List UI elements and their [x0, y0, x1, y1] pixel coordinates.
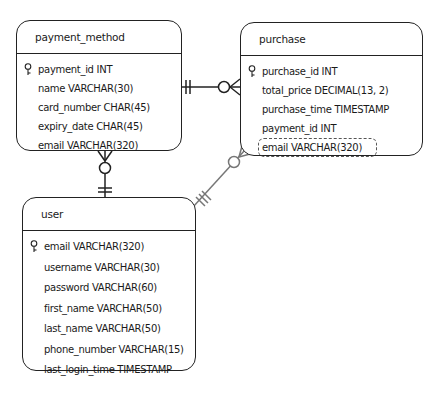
field-text: last_login_time TIMESTAMP: [44, 364, 172, 375]
field-text: expiry_date CHAR(45): [38, 121, 143, 132]
field-row[interactable]: purchase_time TIMESTAMP: [241, 100, 422, 119]
field-row[interactable]: last_login_time TIMESTAMP: [23, 360, 195, 381]
field-text: purchase_id INT: [262, 66, 337, 77]
field-row[interactable]: name VARCHAR(30): [17, 79, 181, 98]
entity-fields: purchase_id INT total_price DECIMAL(13, …: [241, 56, 422, 157]
field-row[interactable]: email VARCHAR(320): [17, 136, 181, 155]
entity-title: purchase: [241, 23, 422, 56]
field-text: last_name VARCHAR(50): [44, 323, 161, 334]
field-row[interactable]: card_number CHAR(45): [17, 98, 181, 117]
field-text: purchase_time TIMESTAMP: [262, 104, 389, 115]
entity-title: user: [23, 198, 195, 231]
field-row[interactable]: payment_id INT: [241, 119, 422, 138]
primary-key-icon: [23, 63, 33, 76]
primary-key-icon: [29, 240, 39, 253]
field-row[interactable]: payment_id INT: [17, 60, 181, 79]
field-row[interactable]: expiry_date CHAR(45): [17, 117, 181, 136]
zero-circle-icon: [100, 163, 111, 174]
field-text: total_price DECIMAL(13, 2): [262, 85, 388, 96]
field-row[interactable]: purchase_id INT: [241, 62, 422, 81]
field-text: phone_number VARCHAR(15): [44, 344, 184, 355]
field-text: email VARCHAR(320): [258, 138, 377, 157]
field-text: card_number CHAR(45): [38, 102, 150, 113]
field-text: first_name VARCHAR(50): [44, 303, 162, 314]
field-row-highlighted[interactable]: email VARCHAR(320): [241, 138, 422, 157]
field-row[interactable]: total_price DECIMAL(13, 2): [241, 81, 422, 100]
relationship-user-payment-method[interactable]: [98, 151, 112, 197]
entity-payment-method[interactable]: payment_method payment_id INT name VARCH…: [16, 20, 182, 151]
relationship-payment-method-purchase[interactable]: [182, 79, 240, 95]
field-text: name VARCHAR(30): [38, 83, 133, 94]
field-text: email VARCHAR(320): [38, 140, 138, 151]
entity-fields: email VARCHAR(320) username VARCHAR(30) …: [23, 231, 195, 381]
entity-user[interactable]: user email VARCHAR(320) username VARCHAR…: [22, 197, 196, 371]
field-text: payment_id INT: [262, 123, 336, 134]
field-row[interactable]: username VARCHAR(30): [23, 258, 195, 279]
field-text: password VARCHAR(60): [44, 282, 157, 293]
field-row[interactable]: last_name VARCHAR(50): [23, 319, 195, 340]
crow-foot-icon: [230, 87, 240, 95]
zero-circle-icon: [229, 157, 240, 168]
field-row[interactable]: password VARCHAR(60): [23, 278, 195, 299]
field-text: email VARCHAR(320): [44, 241, 144, 252]
entity-purchase[interactable]: purchase purchase_id INT total_price DEC…: [240, 22, 423, 156]
field-text: username VARCHAR(30): [44, 262, 160, 273]
entity-fields: payment_id INT name VARCHAR(30) card_num…: [17, 54, 181, 155]
field-row[interactable]: first_name VARCHAR(50): [23, 299, 195, 320]
field-text: payment_id INT: [38, 64, 112, 75]
primary-key-icon: [247, 65, 257, 78]
field-row[interactable]: phone_number VARCHAR(15): [23, 340, 195, 361]
crow-foot-icon: [230, 79, 240, 87]
entity-title: payment_method: [17, 21, 181, 54]
field-row[interactable]: email VARCHAR(320): [23, 237, 195, 258]
zero-circle-icon: [219, 82, 230, 93]
